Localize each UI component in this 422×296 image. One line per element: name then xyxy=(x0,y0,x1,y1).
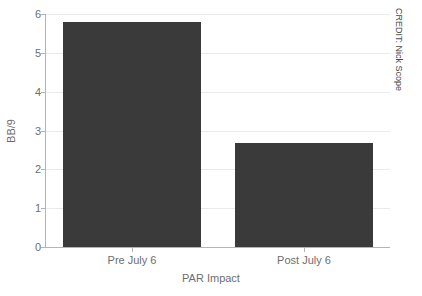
y-axis-title: BB/9 xyxy=(5,119,17,143)
y-tick-mark xyxy=(41,131,45,132)
y-tick-label: 2 xyxy=(5,163,41,175)
y-tick-label: 5 xyxy=(5,47,41,59)
y-tick-mark xyxy=(41,53,45,54)
y-tick-mark xyxy=(41,92,45,93)
x-axis-line xyxy=(45,247,390,248)
y-tick-mark xyxy=(41,208,45,209)
y-tick-label: 4 xyxy=(5,86,41,98)
y-tick-mark xyxy=(41,247,45,248)
bar xyxy=(235,143,373,247)
bar-chart: 0123456 Pre July 6Post July 6 PAR Impact… xyxy=(0,0,422,296)
y-tick-mark xyxy=(41,169,45,170)
y-tick-label: 1 xyxy=(5,202,41,214)
y-tick-mark xyxy=(41,14,45,15)
x-tick-label: Pre July 6 xyxy=(108,254,157,266)
bar xyxy=(63,22,201,247)
x-tick-mark xyxy=(304,248,305,252)
y-tick-label: 6 xyxy=(5,8,41,20)
x-tick-label: Post July 6 xyxy=(277,254,331,266)
x-tick-mark xyxy=(132,248,133,252)
y-axis-line xyxy=(45,14,46,248)
y-tick-label: 0 xyxy=(5,241,41,253)
plot-area xyxy=(46,14,390,247)
x-axis-title: PAR Impact xyxy=(0,272,422,284)
credit-text: CREDIT: Nick Scope xyxy=(394,8,404,91)
y-tick-labels: 0123456 xyxy=(0,0,41,296)
